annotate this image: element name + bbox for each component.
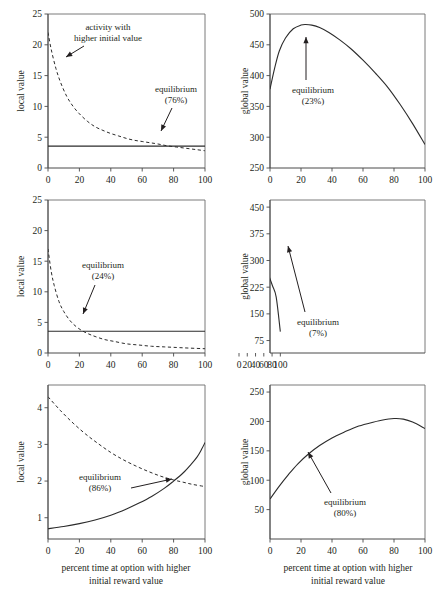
- x-tick-label: 40: [327, 546, 337, 556]
- x-tick-label: 0: [268, 175, 273, 185]
- curve-solid: [270, 418, 425, 499]
- annotation-arrow: [288, 246, 305, 312]
- x-tick-label: 20: [75, 175, 85, 185]
- y-tick-label: 25: [33, 9, 43, 19]
- x-tick-label: 100: [198, 175, 213, 185]
- x-tick-label: 0: [268, 546, 273, 556]
- y-tick-label: 300: [250, 133, 265, 143]
- y-tick-label: 250: [250, 387, 265, 397]
- x-tick-label: 0: [46, 175, 51, 185]
- figure-canvas: 0204060801000510152025local valueactivit…: [0, 0, 440, 601]
- x-tick-label: 0: [46, 546, 51, 556]
- annotation-arrowhead: [83, 307, 88, 314]
- y-tick-label: 375: [250, 229, 265, 239]
- y-tick-label: 1: [37, 513, 42, 523]
- x-tick-label: 100: [198, 546, 213, 556]
- x-tick-label: 40: [106, 175, 116, 185]
- annotation-label: equilibrium(76%): [155, 84, 197, 105]
- y-axis-title: global value: [240, 253, 250, 300]
- y-tick-label: 5: [37, 318, 42, 328]
- x-tick-label: 60: [358, 546, 368, 556]
- x-tick-label: 40: [106, 546, 116, 556]
- chart-panel: 02040608010075150225300375450global valu…: [237, 200, 425, 370]
- y-tick-label: 10: [33, 102, 43, 112]
- chart-panel: 0204060801000510152025local valueequilib…: [16, 195, 212, 369]
- plot-frame: [270, 200, 425, 353]
- y-tick-label: 450: [250, 40, 265, 50]
- x-tick-label: 80: [169, 546, 179, 556]
- y-tick-label: 100: [250, 476, 265, 486]
- annotation-label: equilibrium(23%): [292, 85, 334, 106]
- y-tick-label: 300: [250, 256, 265, 266]
- y-tick-label: 4: [37, 403, 42, 413]
- y-tick-label: 150: [250, 309, 265, 319]
- y-axis-title: local value: [16, 70, 26, 111]
- plot-frame: [48, 385, 205, 539]
- y-tick-label: 75: [255, 336, 265, 346]
- x-tick-label: 60: [137, 360, 147, 370]
- annotation-label: equilibrium(24%): [82, 260, 124, 281]
- figure-panel-grid: 0204060801000510152025local valueactivit…: [0, 0, 440, 601]
- y-tick-label: 15: [33, 257, 43, 267]
- y-tick-label: 15: [33, 71, 43, 81]
- y-tick-label: 5: [37, 133, 42, 143]
- plot-frame: [48, 200, 205, 353]
- curve-dashed: [48, 397, 205, 487]
- annotation-label: equilibrium(86%): [79, 472, 121, 493]
- x-tick-label: 80: [389, 175, 399, 185]
- x-axis-caption-left: percent time at option with higherinitia…: [61, 563, 191, 586]
- y-axis-title: global value: [240, 439, 250, 486]
- x-tick-label: 100: [418, 175, 433, 185]
- y-tick-label: 225: [250, 283, 265, 293]
- y-tick-label: 450: [250, 203, 265, 213]
- x-tick-label: 60: [137, 546, 147, 556]
- x-tick-label: 100: [198, 360, 213, 370]
- x-tick-label: 60: [137, 175, 147, 185]
- x-axis-caption-right: percent time at option with higherinitia…: [283, 563, 413, 586]
- y-tick-label: 400: [250, 71, 265, 81]
- curve-dashed: [48, 249, 205, 349]
- y-tick-label: 50: [255, 505, 265, 515]
- annotation-label: activity withhigher initial value: [74, 22, 142, 43]
- x-tick-label: 40: [106, 360, 116, 370]
- y-tick-label: 350: [250, 102, 265, 112]
- y-tick-label: 20: [33, 40, 43, 50]
- x-tick-label: 100: [273, 360, 288, 370]
- x-tick-label: 0: [46, 360, 51, 370]
- annotation-arrowhead: [165, 478, 172, 483]
- y-tick-label: 150: [250, 446, 265, 456]
- x-tick-label: 0: [237, 360, 242, 370]
- y-tick-label: 20: [33, 226, 43, 236]
- y-tick-label: 200: [250, 417, 265, 427]
- y-tick-label: 2: [37, 476, 42, 486]
- x-tick-label: 20: [296, 175, 306, 185]
- annotation-arrowhead: [66, 52, 73, 57]
- annotation-arrow: [308, 452, 331, 493]
- x-tick-label: 80: [169, 360, 179, 370]
- chart-panel: 020406080100250300350400450500global val…: [240, 9, 432, 184]
- x-tick-label: 20: [75, 360, 85, 370]
- y-axis-title: local value: [16, 441, 26, 482]
- y-tick-label: 0: [37, 348, 42, 358]
- annotation-arrowhead: [303, 37, 308, 43]
- chart-panel: 0204060801001234local valueequilibrium(8…: [16, 385, 212, 556]
- y-axis-title: local value: [16, 256, 26, 297]
- y-tick-label: 500: [250, 9, 265, 19]
- x-tick-label: 20: [75, 546, 85, 556]
- y-axis-title: global value: [240, 68, 250, 115]
- y-tick-label: 25: [33, 195, 43, 205]
- x-tick-label: 100: [418, 546, 433, 556]
- x-tick-label: 80: [169, 175, 179, 185]
- y-tick-label: 250: [250, 163, 265, 173]
- curve-solid: [48, 443, 205, 529]
- annotation-label: equilibrium(80%): [324, 497, 366, 518]
- x-tick-label: 80: [389, 546, 399, 556]
- annotation-label: equilibrium(7%): [297, 317, 339, 338]
- x-tick-label: 60: [358, 175, 368, 185]
- chart-panel: 0204060801000510152025local valueactivit…: [16, 9, 212, 184]
- y-tick-label: 10: [33, 287, 43, 297]
- x-tick-label: 20: [296, 546, 306, 556]
- chart-panel: 02040608010050100150200250global valueeq…: [240, 385, 432, 556]
- x-tick-label: 40: [327, 175, 337, 185]
- y-tick-label: 3: [37, 440, 42, 450]
